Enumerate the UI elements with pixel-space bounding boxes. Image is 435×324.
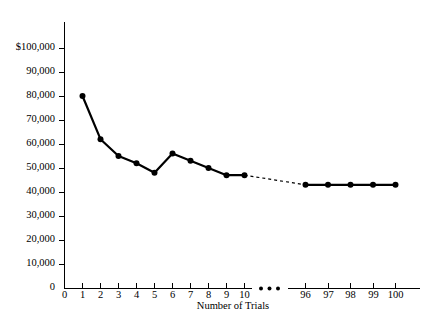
y-tick-label: 90,000 <box>26 65 55 76</box>
series-connector-dashed <box>245 175 306 185</box>
x-axis-ticks-right <box>306 283 396 289</box>
x-axis-tick-labels-right: 96 97 98 99 100 <box>300 289 403 300</box>
data-point <box>188 158 194 164</box>
y-tick-label: 0 <box>50 281 55 292</box>
x-axis-ticks-left <box>65 283 245 289</box>
series-markers-early-trials <box>80 93 248 178</box>
data-point <box>134 160 140 166</box>
data-point <box>242 172 248 178</box>
x-tick-label: 3 <box>116 289 121 300</box>
data-point <box>325 182 331 188</box>
x-tick-label: 9 <box>224 289 229 300</box>
x-tick-label: 98 <box>345 289 356 300</box>
y-axis-ticks <box>59 49 65 265</box>
x-tick-label: 96 <box>300 289 311 300</box>
y-axis-tick-labels: $100,000 90,000 80,000 70,000 60,000 50,… <box>16 41 55 292</box>
data-point <box>370 182 376 188</box>
y-tick-label: 60,000 <box>26 137 55 148</box>
x-tick-label: 97 <box>323 289 334 300</box>
data-point <box>116 153 122 159</box>
x-tick-label: 2 <box>98 289 103 300</box>
y-tick-label: 10,000 <box>26 257 55 268</box>
x-tick-label: 6 <box>170 289 175 300</box>
x-tick-label: 99 <box>368 289 379 300</box>
x-tick-label: 0 <box>62 289 67 300</box>
y-tick-label: 20,000 <box>26 233 55 244</box>
x-tick-label: 7 <box>188 289 193 300</box>
x-tick-label: 8 <box>206 289 211 300</box>
x-axis-title: Number of Trials <box>197 300 269 311</box>
x-tick-label: 10 <box>239 289 250 300</box>
data-point <box>170 151 176 157</box>
chart-container: $100,000 90,000 80,000 70,000 60,000 50,… <box>0 0 435 324</box>
y-tick-label: 70,000 <box>26 113 55 124</box>
series-line-early-trials <box>83 96 245 175</box>
x-tick-label: 4 <box>134 289 140 300</box>
y-tick-label: 50,000 <box>26 161 55 172</box>
x-tick-label: 1 <box>80 289 85 300</box>
data-point <box>206 165 212 171</box>
data-point <box>98 136 104 142</box>
y-tick-label: $100,000 <box>16 41 55 52</box>
data-point <box>224 172 230 178</box>
axis-break-marker <box>259 287 280 291</box>
x-axis-tick-labels-left: 0 1 2 3 4 5 6 7 8 9 10 <box>62 289 250 300</box>
line-chart-plot: $100,000 90,000 80,000 70,000 60,000 50,… <box>0 0 435 324</box>
x-tick-label: 5 <box>152 289 157 300</box>
x-tick-label: 100 <box>388 289 404 300</box>
y-tick-label: 80,000 <box>26 89 55 100</box>
y-tick-label: 40,000 <box>26 185 55 196</box>
data-point <box>80 93 86 99</box>
data-point <box>348 182 354 188</box>
data-point <box>393 182 399 188</box>
data-point <box>303 182 309 188</box>
y-tick-label: 30,000 <box>26 209 55 220</box>
data-point <box>152 170 158 176</box>
